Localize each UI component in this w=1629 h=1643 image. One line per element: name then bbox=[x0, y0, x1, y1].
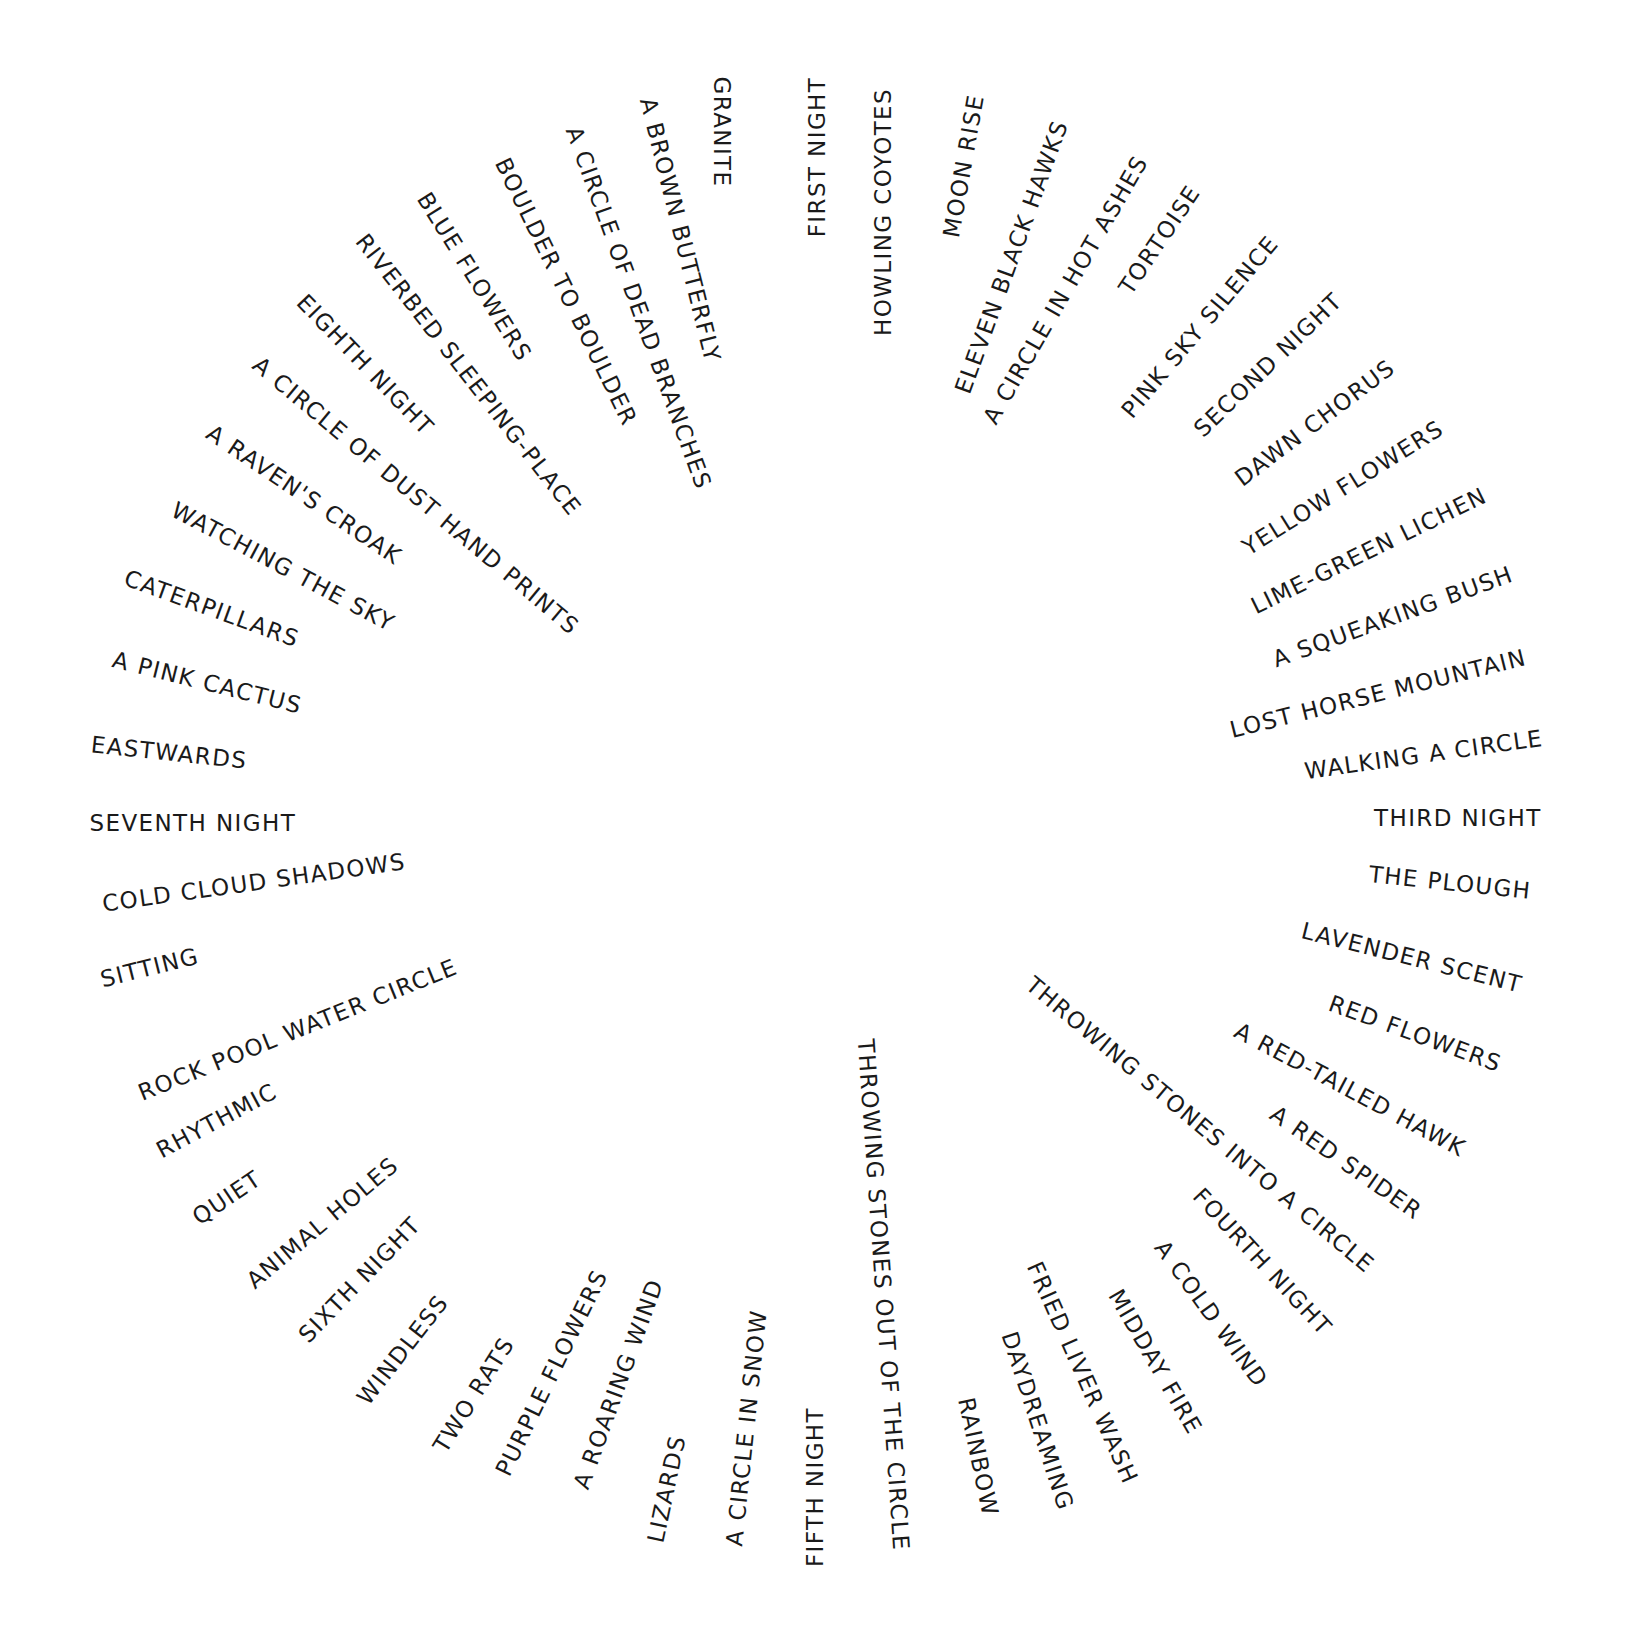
radial-phrase: FIFTH NIGHT bbox=[804, 1407, 827, 1567]
radial-text-artwork: GRANITEFIRST NIGHTHOWLING COYOTESMOON RI… bbox=[0, 0, 1629, 1643]
radial-phrase: FIRST NIGHT bbox=[806, 77, 829, 238]
radial-phrase: RAINBOW bbox=[954, 1396, 1002, 1519]
radial-phrase: QUIET bbox=[189, 1167, 266, 1229]
radial-phrase: ROCK POOL WATER CIRCLE bbox=[135, 955, 461, 1104]
radial-phrase: THROWING STONES OUT OF THE CIRCLE bbox=[854, 1038, 913, 1551]
radial-phrase: COLD CLOUD SHADOWS bbox=[101, 850, 407, 915]
radial-phrase: MIDDAY FIRE bbox=[1104, 1286, 1205, 1439]
radial-phrase: HOWLING COYOTES bbox=[872, 88, 895, 336]
radial-phrase: LAVENDER SCENT bbox=[1299, 919, 1524, 996]
radial-phrase: THE PLOUGH bbox=[1368, 863, 1533, 903]
radial-phrase: A PINK CACTUS bbox=[110, 648, 304, 717]
radial-phrase: WALKING A CIRCLE bbox=[1303, 727, 1545, 783]
radial-phrase: MOON RISE bbox=[940, 93, 988, 240]
radial-phrase: WINDLESS bbox=[353, 1291, 453, 1409]
radial-phrase: A CIRCLE IN SNOW bbox=[723, 1309, 771, 1548]
radial-phrase: GRANITE bbox=[710, 77, 733, 188]
radial-phrase: SITTING bbox=[98, 945, 201, 992]
radial-phrase: EASTWARDS bbox=[90, 733, 249, 772]
radial-phrase: THROWING STONES INTO A CIRCLE bbox=[1022, 973, 1378, 1277]
radial-phrase: RED FLOWERS bbox=[1326, 992, 1505, 1076]
radial-phrase: CATERPILLARS bbox=[121, 567, 302, 652]
radial-phrase: SEVENTH NIGHT bbox=[90, 812, 297, 835]
radial-phrase: LIZARDS bbox=[644, 1433, 689, 1545]
radial-phrase: THIRD NIGHT bbox=[1374, 807, 1542, 830]
